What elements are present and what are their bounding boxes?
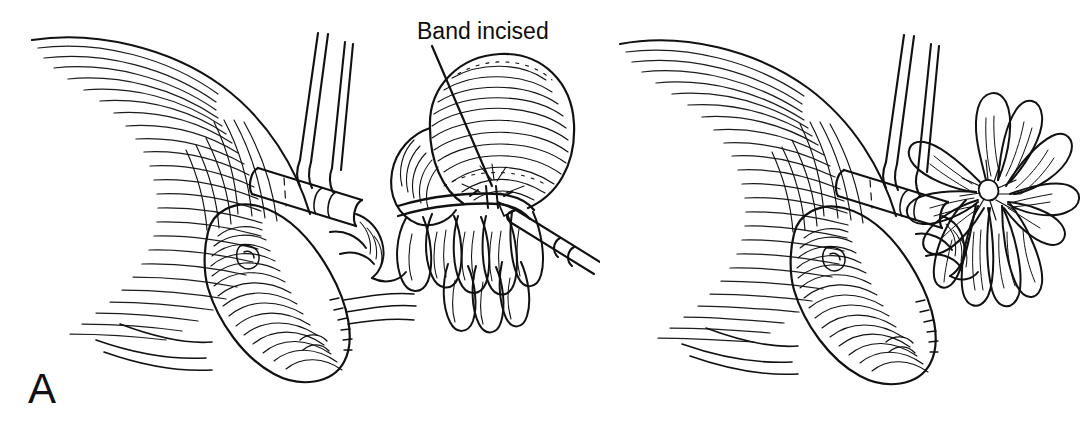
organ-marking bbox=[823, 247, 845, 271]
retractor-handles bbox=[883, 35, 939, 194]
bowel-segments bbox=[330, 214, 406, 281]
lower-tissue-sweep bbox=[682, 328, 798, 374]
panel-a: Band incised A bbox=[0, 0, 600, 438]
cannula-tube bbox=[250, 168, 362, 226]
lower-organ-hatching bbox=[211, 227, 342, 370]
retractor-handles bbox=[297, 33, 353, 192]
band-incised-label: Band incised bbox=[417, 18, 549, 44]
right-lower-strands bbox=[344, 293, 416, 324]
hatched-tissue-flap bbox=[620, 40, 896, 216]
organ-marking bbox=[237, 245, 259, 269]
panel-a-artwork bbox=[0, 0, 600, 438]
panel-b-artwork bbox=[600, 0, 1088, 438]
rosette-lobe-fan bbox=[907, 93, 1079, 306]
scalpel-blade bbox=[498, 202, 516, 216]
constricting-band bbox=[398, 194, 534, 220]
hatched-tissue-flap bbox=[32, 37, 310, 214]
lower-organ-hatching bbox=[797, 229, 928, 372]
banded-mass-hatching bbox=[432, 66, 568, 200]
mesentery-strands bbox=[186, 120, 277, 230]
lower-tissue-sweep bbox=[96, 324, 212, 370]
panel-b: B bbox=[600, 0, 1088, 438]
panel-a-label: A bbox=[28, 368, 56, 410]
surgical-figure: Band incised A bbox=[0, 0, 1088, 438]
